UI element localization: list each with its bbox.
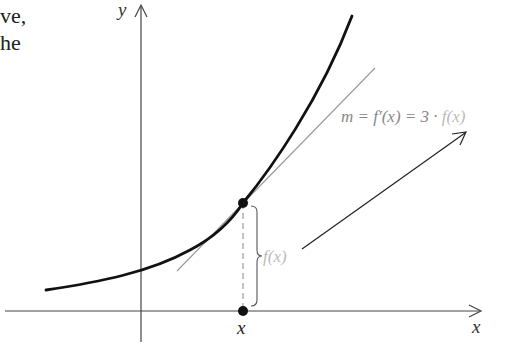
tangent-point: [238, 198, 248, 208]
brace: [251, 206, 262, 306]
slope-equation-prefix: m = f′(x) = 3 ·: [341, 107, 442, 126]
x-axis-label: x: [471, 316, 481, 337]
slope-equation: m = f′(x) = 3 · f(x): [341, 107, 466, 126]
slope-equation-suffix: f(x): [442, 107, 466, 126]
y-axis: [135, 5, 147, 342]
x-axis-point: [238, 306, 248, 316]
y-axis-label: y: [116, 0, 127, 20]
brace-label: f(x): [263, 247, 287, 266]
exponential-tangent-diagram: y x x m = f′(x) = 3 · f(x) f(x): [0, 0, 505, 346]
pointer-arrow: [302, 132, 466, 249]
x-marker-label: x: [236, 317, 246, 338]
